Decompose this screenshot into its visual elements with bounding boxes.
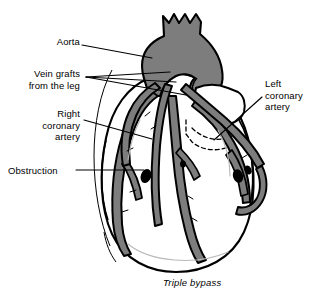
figure-canvas: Aorta Vein grafts from the leg Right cor…: [0, 0, 322, 296]
obstruction-mark-lad: [180, 160, 186, 167]
label-aorta: Aorta: [8, 36, 80, 48]
label-left-coronary-artery: Left coronary artery: [265, 78, 319, 113]
label-right-coronary-artery: Right coronary artery: [4, 108, 80, 143]
figure-caption: Triple bypass: [163, 277, 221, 288]
leader-aorta: [82, 45, 152, 58]
label-obstruction: Obstruction: [8, 165, 88, 177]
label-vein-grafts: Vein grafts from the leg: [4, 68, 80, 91]
